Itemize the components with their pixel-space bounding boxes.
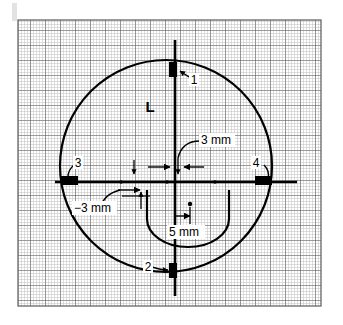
marker-label-4: 4 xyxy=(253,156,260,170)
dimension-label-5mm: 5 mm xyxy=(169,225,199,239)
region-label-l: L xyxy=(145,98,154,115)
dimension-label-neg3mm-group: −3 mm xyxy=(72,201,117,215)
marker-label-1-group: 1 xyxy=(189,73,199,87)
dimension-label-5mm-group: 5 mm xyxy=(167,225,205,239)
axis-dot xyxy=(213,180,217,184)
marker-label-3-group: 3 xyxy=(73,156,83,170)
axis-dot xyxy=(119,180,123,184)
corner-artifact xyxy=(12,3,17,21)
technical-diagram: 1 2 3 4 L 3 mm −3 mm 5 mm xyxy=(0,0,343,325)
dimension-label-neg3mm: −3 mm xyxy=(74,201,111,215)
marker-label-1: 1 xyxy=(191,73,198,87)
marker-label-3: 3 xyxy=(75,156,82,170)
dimension-label-3mm: 3 mm xyxy=(201,133,231,147)
dimension-label-3mm-group: 3 mm xyxy=(199,133,235,147)
marker-2[interactable] xyxy=(169,263,177,278)
inner-center-dot xyxy=(188,202,192,206)
marker-4[interactable] xyxy=(255,176,272,185)
axis-dot xyxy=(165,180,169,184)
marker-label-4-group: 4 xyxy=(251,156,261,170)
marker-1[interactable] xyxy=(169,62,177,77)
marker-3[interactable] xyxy=(61,176,78,185)
marker-label-2: 2 xyxy=(145,260,152,274)
marker-label-2-group: 2 xyxy=(143,260,153,274)
figure-root: 1 2 3 4 L 3 mm −3 mm 5 mm xyxy=(0,0,343,325)
